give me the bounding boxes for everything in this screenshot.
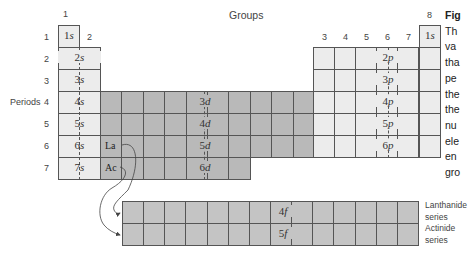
caption-line: gro xyxy=(445,165,461,181)
caption-line: Th xyxy=(445,24,461,40)
figure-caption: Fig Thvathapethethenueleengro xyxy=(445,8,461,181)
caption-title: Fig xyxy=(445,9,461,21)
caption-line: en xyxy=(445,149,461,165)
caption-line: va xyxy=(445,39,461,55)
lanthanide-series-label: Lanthanide series xyxy=(425,199,467,223)
lanthanide-actinide-arrows-icon xyxy=(0,0,470,259)
caption-line: the xyxy=(445,87,461,103)
caption-line: nu xyxy=(445,118,461,134)
caption-line: tha xyxy=(445,55,461,71)
caption-line: pe xyxy=(445,71,461,87)
caption-line: the xyxy=(445,102,461,118)
caption-line: ele xyxy=(445,134,461,150)
actinide-series-label: Actinide series xyxy=(425,222,455,246)
